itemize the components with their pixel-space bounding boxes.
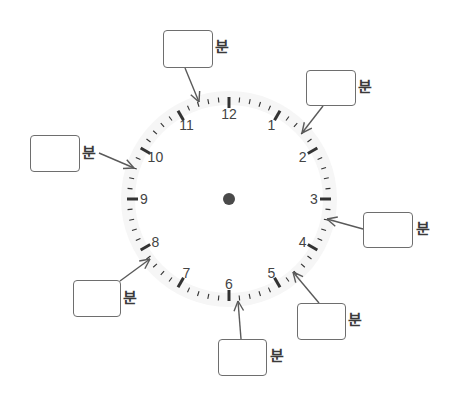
answer-box-q-bottom[interactable]	[218, 339, 267, 376]
minute-tick	[325, 209, 330, 210]
hour-numeral: 10	[148, 149, 164, 165]
hour-numeral: 5	[268, 265, 276, 281]
arrow-q-lower-right	[293, 272, 319, 303]
minute-tick	[239, 295, 240, 300]
minute-unit-label: 분	[215, 40, 229, 55]
minute-tick	[325, 188, 330, 189]
hour-numeral: 3	[310, 191, 318, 207]
minute-unit-label: 분	[358, 80, 372, 95]
arrowhead-icon	[199, 91, 200, 102]
answer-box-q-lower-left[interactable]	[73, 280, 121, 317]
arrow-q-bottom	[234, 301, 244, 339]
minute-unit-label: 분	[82, 146, 96, 161]
minute-unit-label: 분	[270, 349, 284, 364]
hour-numeral: 6	[225, 276, 233, 292]
minute-tick	[239, 98, 240, 103]
hour-numeral: 4	[299, 234, 307, 250]
answer-box-q-upper-right[interactable]	[306, 70, 356, 106]
hour-numeral: 9	[140, 191, 148, 207]
hour-numeral: 12	[221, 106, 237, 122]
minute-tick	[218, 98, 219, 103]
answer-box-q-right[interactable]	[363, 212, 413, 248]
arrow-q-top	[185, 68, 200, 102]
minute-tick	[218, 295, 219, 300]
minute-unit-label: 분	[123, 291, 137, 306]
hour-numeral: 7	[183, 265, 191, 281]
hour-numeral: 1	[268, 117, 276, 133]
minute-unit-label: 분	[416, 222, 430, 237]
arrow-q-upper-right	[302, 106, 323, 133]
clock-worksheet: 121234567891011 분분분분분분분	[0, 0, 454, 397]
answer-box-q-lower-right[interactable]	[297, 303, 346, 340]
clock-center-dot	[223, 193, 235, 205]
minute-unit-label: 분	[348, 313, 362, 328]
hour-numeral: 8	[151, 234, 159, 250]
hour-numeral: 11	[179, 117, 194, 133]
hour-numeral: 2	[299, 149, 307, 165]
minute-tick	[128, 209, 133, 210]
answer-box-q-top[interactable]	[163, 30, 213, 68]
arrow-q-lower-left	[120, 259, 150, 281]
answer-box-q-left[interactable]	[30, 135, 80, 172]
clock-face: 121234567891011	[0, 0, 454, 397]
minute-tick	[128, 188, 133, 189]
